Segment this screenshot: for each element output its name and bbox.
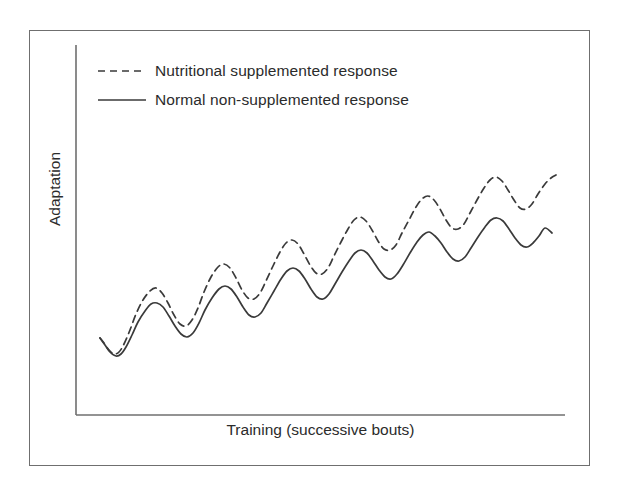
figure-container: Nutritional supplemented response Normal… [0, 0, 618, 496]
x-axis-label: Training (successive bouts) [76, 421, 565, 439]
y-axis-label: Adaptation [46, 129, 64, 249]
legend-label-normal: Normal non-supplemented response [155, 91, 409, 109]
legend-label-supplemented: Nutritional supplemented response [155, 62, 398, 80]
